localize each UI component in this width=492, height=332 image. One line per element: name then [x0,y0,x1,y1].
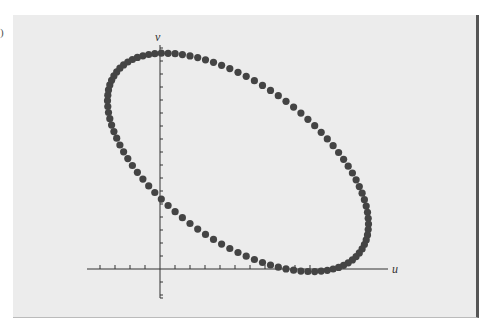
data-point [330,142,337,149]
data-point [318,129,325,136]
data-point [297,110,304,117]
data-point [243,73,250,80]
data-point [267,87,274,94]
y-axis-label: v [155,30,161,44]
data-point [324,135,331,142]
data-point [297,268,304,275]
data-point [226,65,233,72]
data-point [311,122,318,129]
axes [87,45,388,298]
data-point [290,267,297,274]
chart: v u [0,0,492,332]
data-point [145,51,152,58]
data-point [158,196,165,203]
data-point [226,245,233,252]
data-point [194,54,201,61]
data-point [202,231,209,238]
data-point [151,50,158,57]
data-point [179,214,186,221]
data-point [282,98,289,105]
data-point [210,59,217,66]
data-point [158,50,165,57]
data-point [124,155,131,162]
data-point [282,265,289,272]
data-point [359,190,366,197]
data-point [139,176,146,183]
data-point [275,92,282,99]
data-point [275,264,282,271]
data-point [113,135,120,142]
data-point [259,82,266,89]
data-point [218,62,225,69]
data-point [356,183,363,190]
data-point [129,162,136,169]
x-axis-label: u [392,262,398,276]
data-point [267,261,274,268]
data-point [234,249,241,256]
data-point [145,182,152,189]
data-point [186,52,193,59]
data-point [234,69,241,76]
data-point [251,256,258,263]
data-point [324,267,331,274]
data-point [318,268,325,275]
data-point [210,236,217,243]
data-point [251,77,258,84]
data-point [172,50,179,57]
data-point [165,50,172,57]
data-point [290,104,297,111]
data-point [106,115,113,122]
data-point [259,259,266,266]
data-point [116,141,123,148]
data-point [165,202,172,209]
data-point [361,196,368,203]
data-point [365,215,372,222]
data-point [311,268,318,275]
data-point [120,148,127,155]
data-point [349,169,356,176]
data-point [110,128,117,135]
data-points [104,50,372,276]
data-point [363,203,370,210]
data-point [218,241,225,248]
data-point [340,156,347,163]
data-point [179,51,186,58]
data-point [243,253,250,260]
data-point [304,268,311,275]
data-point [304,116,311,123]
data-point [345,163,352,170]
data-point [108,122,115,129]
data-point [194,226,201,233]
data-point [353,176,360,183]
data-point [172,208,179,215]
data-point [335,149,342,156]
data-point [151,189,158,196]
data-point [202,56,209,63]
data-point [134,169,141,176]
data-point [186,220,193,227]
